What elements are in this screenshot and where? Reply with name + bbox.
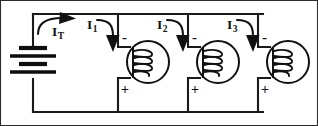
coil-2 bbox=[197, 41, 239, 83]
coil-1-plus-sign: + bbox=[121, 83, 129, 97]
current-label-IT: IT bbox=[52, 25, 64, 41]
coil-2-plus-sign: + bbox=[191, 83, 199, 97]
dc-battery bbox=[10, 48, 56, 72]
current-arrow-I1 bbox=[97, 20, 120, 52]
coil-1 bbox=[127, 41, 169, 83]
current-label-I1: I1 bbox=[87, 18, 97, 34]
current-label-I3: I3 bbox=[227, 18, 237, 34]
current-subscript-I3: 3 bbox=[232, 24, 237, 34]
coil-3-minus-sign: - bbox=[262, 30, 267, 45]
current-arrow-I2 bbox=[167, 20, 190, 52]
current-subscript-I2: 2 bbox=[162, 24, 167, 34]
current-arrow-I3 bbox=[237, 20, 260, 52]
coil-2-minus-sign: - bbox=[192, 30, 197, 45]
coil-1-minus-sign: - bbox=[122, 30, 127, 45]
current-label-I2: I2 bbox=[157, 18, 167, 34]
current-subscript-I1: 1 bbox=[92, 24, 97, 34]
current-subscript-IT: T bbox=[57, 31, 64, 41]
coil-3-plus-sign: + bbox=[261, 83, 269, 97]
circuit-diagram: IT I1 I2 I3 - + - + - + bbox=[0, 0, 318, 126]
coil-3 bbox=[267, 41, 309, 83]
